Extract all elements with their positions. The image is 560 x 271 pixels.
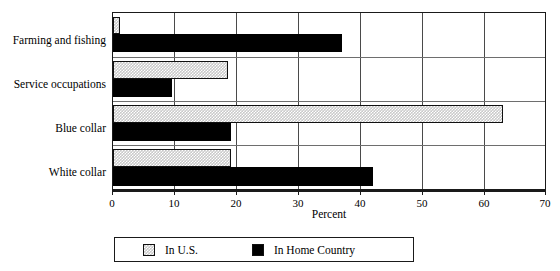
category-label-service-occupations: Service occupations [0,78,106,90]
x-tick-60 [484,190,485,195]
bar-white-collar-in-home-country [113,167,373,186]
category-label-blue-collar: Blue collar [0,122,106,134]
bar-blue-collar-in-home-country [113,123,231,141]
category-separator [113,101,545,102]
legend-label-in-home-country: In Home Country [274,244,355,256]
bar-farming-and-fishing-in-home-country [113,34,342,52]
x-tick-70 [545,190,546,195]
legend-entry-in-us: In U.S. [143,244,198,256]
category-axis-labels: Farming and fishing Service occupations … [0,12,106,190]
bar-service-occupations-in-home-country [113,79,172,97]
bar-white-collar-in-us [113,149,231,167]
x-tick-40 [360,190,361,195]
legend-label-in-us: In U.S. [165,244,198,256]
category-separator [113,57,545,58]
legend-entry-in-home-country: In Home Country [252,244,355,256]
bar-service-occupations-in-us [113,61,228,79]
x-tick-50 [422,190,423,195]
category-label-white-collar: White collar [0,166,106,178]
x-tick-20 [236,190,237,195]
category-label-farming-and-fishing: Farming and fishing [0,34,106,46]
legend-swatch-solid-icon [252,244,264,256]
x-axis-title: Percent [112,208,546,220]
x-tick-0 [112,190,113,195]
x-tick-30 [298,190,299,195]
bar-blue-collar-in-us [113,105,503,123]
x-axis: 0 10 20 30 40 50 60 70 [112,190,546,192]
category-separator [113,145,545,146]
chart-legend: In U.S. In Home Country [114,237,414,262]
x-tick-10 [174,190,175,195]
bar-chart: Farming and fishing Service occupations … [0,0,560,271]
bar-farming-and-fishing-in-us [113,17,120,34]
plot-area [112,12,546,190]
legend-swatch-hatched-icon [143,244,155,256]
